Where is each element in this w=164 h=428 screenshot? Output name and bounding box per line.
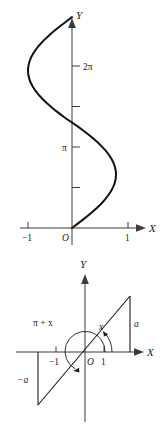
angle-y-axis-arrowhead (81, 274, 89, 284)
terminal-line (38, 296, 130, 405)
origin-label-2: O (62, 233, 69, 243)
angle-x-tick-label-1: 1 (101, 357, 106, 367)
figure-root: Y X −1 1 O 2π π Y X (0, 0, 164, 428)
x-tick-label-1-2: 1 (125, 233, 130, 243)
inverse-sine-curve-overlay: Y X −1 1 O 2π π (0, 0, 164, 250)
angle-diagram: Y X −1 1 O a −a x π + x (0, 252, 164, 428)
x-axis-label-2: X (148, 222, 157, 234)
angle-x-axis-arrowhead (134, 348, 144, 356)
angle-x-tick-label-minus-1: −1 (49, 357, 59, 367)
angle-y-axis-label: Y (80, 258, 88, 270)
overlay-canvas (0, 0, 164, 250)
y-tick-label-pi-2: π (62, 143, 67, 153)
x-tick-label-minus-1-2: −1 (22, 233, 32, 243)
angle-x-arc (105, 333, 113, 352)
y-tick-label-2pi-2: 2π (83, 62, 93, 72)
side-a-label: a (134, 319, 139, 329)
side-negative-a-label: −a (17, 375, 28, 385)
angle-x-arc-arrowhead (103, 331, 108, 337)
angle-origin-label: O (87, 357, 94, 367)
angle-x-axis-label: X (146, 346, 155, 358)
angle-pi-plus-x-label: π + x (33, 318, 53, 328)
angle-x-label: x (98, 322, 104, 332)
